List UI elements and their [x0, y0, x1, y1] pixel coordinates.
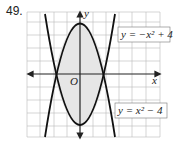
- y-axis-label: y: [83, 7, 89, 19]
- equation-2: y = x² − 4: [117, 104, 163, 116]
- graph: y x O y = −x² + 4 y = x² − 4: [0, 0, 184, 143]
- equation-1: y = −x² + 4: [120, 28, 173, 40]
- origin-label: O: [70, 75, 78, 87]
- x-axis-label: x: [151, 74, 157, 86]
